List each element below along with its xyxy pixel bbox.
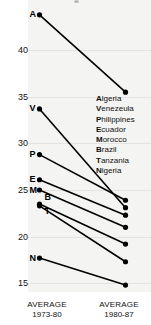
legend-name: hilippines [101,115,134,124]
data-point-algeria-start [37,12,42,17]
legend-item-algeria: Algeria [96,94,135,104]
data-point-philippines-end [123,198,128,203]
x-axis-label-left-line1: AVERAGE [16,300,78,310]
legend-name: anzania [101,156,129,165]
legend-name: igeria [102,166,122,175]
legend-initial: M [96,135,103,144]
legend-item-nigeria: Nigeria [96,166,135,176]
country-legend-list: AlgeriaVenezeulaPhilippinesEcuadorMorocc… [96,94,135,176]
slopegraph-chart: 403530252015 AVPEMBTN AlgeriaVenezeulaPh… [0,0,151,325]
slope-line-algeria [40,15,126,92]
legend-item-brazil: Brazil [96,145,135,155]
slope-line-nigeria [40,258,126,285]
x-axis-label-left: AVERAGE 1973-80 [16,300,78,320]
marker-letter-ecuador: E [30,175,36,184]
marker-letter-algeria: A [30,10,37,19]
data-point-philippines-start [37,152,42,157]
legend-item-tanzania: Tanzania [96,156,135,166]
legend-item-morocco: Morocco [96,135,135,145]
legend-item-venezuela: Venezeula [96,104,135,114]
data-point-brazil-end [123,241,128,246]
legend-name: cuador [101,125,125,134]
marker-letter-tanzania: T [45,207,51,216]
legend-name: razil [102,145,117,154]
marker-letter-philippines: P [30,150,36,159]
data-point-nigeria-start [37,255,42,260]
data-point-venezuela-start [37,106,42,111]
marker-letter-venezuela: V [30,104,36,113]
legend-name: enezeula [101,104,133,113]
legend-item-philippines: Philippines [96,115,135,125]
x-axis-label-right-line2: 1980-87 [88,310,150,320]
slope-line-tanzania [40,206,126,262]
legend-name: orocco [103,135,127,144]
data-point-venezuela-end [123,205,128,210]
x-axis-label-right: AVERAGE 1980-87 [88,300,150,320]
data-point-nigeria-end [123,282,128,287]
x-axis-label-right-line1: AVERAGE [88,300,150,310]
slope-line-morocco [40,190,126,227]
data-point-morocco-start [37,187,42,192]
data-point-tanzania-end [123,259,128,264]
x-axis-label-left-line2: 1973-80 [16,310,78,320]
marker-letter-brazil: B [45,193,52,202]
data-point-tanzania-start [37,203,42,208]
data-point-ecuador-start [37,177,42,182]
legend-name: lgeria [102,94,122,103]
legend-item-ecuador: Ecuador [96,125,135,135]
data-point-morocco-end [123,225,128,230]
marker-letter-nigeria: N [30,254,37,263]
marker-letter-morocco: M [30,186,38,195]
data-point-ecuador-end [123,213,128,218]
